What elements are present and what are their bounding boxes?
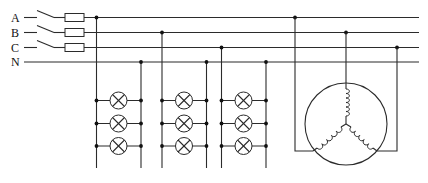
switch-a-icon bbox=[37, 11, 54, 18]
junction-node bbox=[205, 99, 209, 103]
junction-node bbox=[220, 46, 224, 50]
phase-label-b: B bbox=[11, 26, 19, 40]
fuses bbox=[65, 14, 84, 52]
junction-node bbox=[139, 99, 143, 103]
junction-node bbox=[264, 122, 268, 126]
junction-node bbox=[160, 99, 164, 103]
junction-node bbox=[264, 60, 268, 64]
junction-node bbox=[160, 144, 164, 148]
knife-switches bbox=[37, 11, 54, 48]
junction-node bbox=[139, 122, 143, 126]
lamp-group-a bbox=[95, 16, 143, 168]
winding-c-icon bbox=[350, 127, 373, 149]
lead bbox=[346, 124, 351, 127]
phase-label-n: N bbox=[11, 55, 20, 69]
lamp-group-c bbox=[220, 46, 268, 168]
junction-node bbox=[264, 99, 268, 103]
motor-wire-c bbox=[377, 48, 397, 152]
junction-node bbox=[139, 60, 143, 64]
lamp-groups bbox=[95, 16, 268, 168]
winding-a-icon bbox=[317, 127, 342, 149]
junction-node bbox=[95, 144, 99, 148]
junction-node bbox=[160, 31, 164, 35]
junction-node bbox=[139, 144, 143, 148]
switch-b-icon bbox=[37, 26, 54, 33]
junction-node bbox=[264, 144, 268, 148]
junction-node bbox=[205, 60, 209, 64]
star-connected-motor bbox=[293, 16, 399, 165]
lamp-group-b bbox=[160, 31, 208, 168]
motor-wire-a bbox=[295, 18, 313, 152]
junction-node bbox=[220, 122, 224, 126]
junction-node bbox=[160, 122, 164, 126]
junction-node bbox=[220, 144, 224, 148]
junction-node bbox=[95, 99, 99, 103]
junction-node bbox=[95, 122, 99, 126]
lead bbox=[341, 124, 346, 127]
circuit-diagram: ABCN bbox=[0, 0, 428, 183]
junction-node bbox=[95, 16, 99, 20]
phase-label-c: C bbox=[11, 41, 19, 55]
fuse-a-icon bbox=[65, 14, 84, 22]
winding-b-icon bbox=[346, 89, 349, 116]
junction-node bbox=[205, 122, 209, 126]
fuse-b-icon bbox=[65, 29, 84, 37]
fuse-c-icon bbox=[65, 44, 84, 52]
lead bbox=[373, 148, 377, 151]
junction-node bbox=[205, 144, 209, 148]
switch-c-icon bbox=[37, 41, 54, 48]
phase-labels: ABCN bbox=[11, 11, 20, 70]
phase-label-a: A bbox=[11, 11, 20, 25]
junction-node bbox=[220, 99, 224, 103]
